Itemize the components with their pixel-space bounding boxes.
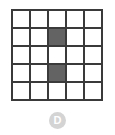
grid-cell-r5-c2[interactable] xyxy=(31,83,47,99)
grid-cell-r1-c1[interactable] xyxy=(13,11,29,27)
grid-cell-r5-c5[interactable] xyxy=(85,83,101,99)
grid-cell-r1-c3[interactable] xyxy=(49,11,65,27)
grid-cell-r4-c5[interactable] xyxy=(85,65,101,81)
option-badge-label: D xyxy=(54,115,62,126)
puzzle-figure-option[interactable]: D xyxy=(0,0,115,135)
grid-cell-r2-c4[interactable] xyxy=(67,29,83,45)
grid-cell-r5-c1[interactable] xyxy=(13,83,29,99)
grid-cell-r3-c2[interactable] xyxy=(31,47,47,63)
grid-cell-r4-c4[interactable] xyxy=(67,65,83,81)
grid-cell-r5-c4[interactable] xyxy=(67,83,83,99)
grid-cell-r3-c4[interactable] xyxy=(67,47,83,63)
grid-cell-r1-c5[interactable] xyxy=(85,11,101,27)
grid-cell-r3-c3[interactable] xyxy=(49,47,65,63)
grid-cell-r2-c5[interactable] xyxy=(85,29,101,45)
grid-cell-r2-c3[interactable] xyxy=(49,29,65,45)
grid-cell-r4-c3[interactable] xyxy=(49,65,65,81)
grid-cell-r3-c5[interactable] xyxy=(85,47,101,63)
grid-cell-r2-c1[interactable] xyxy=(13,29,29,45)
grid-cell-r2-c2[interactable] xyxy=(31,29,47,45)
option-badge: D xyxy=(49,112,66,129)
pattern-grid[interactable] xyxy=(11,9,103,101)
grid-cell-r4-c2[interactable] xyxy=(31,65,47,81)
grid-cell-r1-c4[interactable] xyxy=(67,11,83,27)
grid-cell-r3-c1[interactable] xyxy=(13,47,29,63)
grid-cell-r4-c1[interactable] xyxy=(13,65,29,81)
grid-cell-r5-c3[interactable] xyxy=(49,83,65,99)
grid-cell-r1-c2[interactable] xyxy=(31,11,47,27)
